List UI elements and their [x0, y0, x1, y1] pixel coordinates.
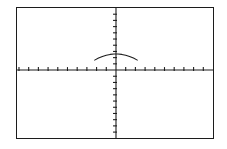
calculator-screenshot: [0, 0, 227, 149]
graph-display-frame: [16, 7, 214, 139]
axes-group: [17, 8, 213, 138]
graph-plot: [17, 8, 213, 138]
